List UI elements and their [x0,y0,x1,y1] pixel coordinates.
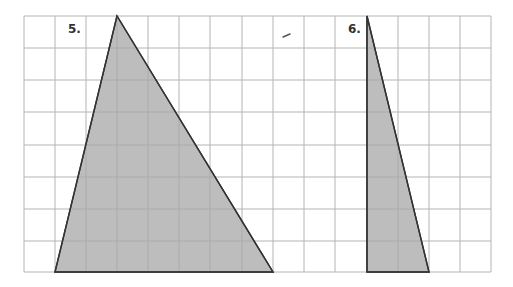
shape-label: 6. [348,22,361,36]
triangle-5 [55,16,273,272]
pencil-mark [283,34,290,37]
shape-label: 5. [68,22,81,36]
grid-figure: 5.6. [0,0,513,287]
pencil-mark [283,34,290,37]
